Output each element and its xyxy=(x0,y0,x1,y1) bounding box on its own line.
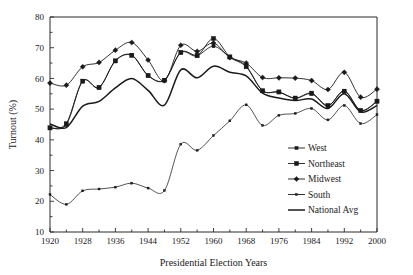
point-2-5 xyxy=(129,40,134,45)
legend-label-west: West xyxy=(308,143,327,153)
x-tick-label-1928: 1928 xyxy=(74,236,93,246)
point-3-8 xyxy=(180,143,182,145)
point-1-6 xyxy=(146,74,150,78)
point-2-9 xyxy=(195,49,200,54)
point-2-3 xyxy=(96,60,101,65)
point-3-12 xyxy=(245,104,247,106)
point-1-8 xyxy=(179,51,183,55)
point-3-2 xyxy=(82,190,84,192)
point-3-7 xyxy=(163,190,165,192)
chart-figure: 1020304050607080192019281936194419521960… xyxy=(0,0,413,275)
x-tick-label-1976: 1976 xyxy=(270,236,289,246)
point-3-18 xyxy=(343,104,345,106)
point-3-6 xyxy=(147,187,149,189)
point-1-0 xyxy=(48,126,52,130)
x-tick-label-1920: 1920 xyxy=(41,236,60,246)
point-2-17 xyxy=(325,87,330,92)
point-2-14 xyxy=(276,75,281,80)
point-1-17 xyxy=(326,103,330,107)
turnout-line-chart: 1020304050607080192019281936194419521960… xyxy=(0,0,413,275)
point-1-5 xyxy=(130,53,134,57)
point-2-13 xyxy=(260,75,265,80)
x-tick-label-1936: 1936 xyxy=(106,236,125,246)
point-1-4 xyxy=(113,59,117,63)
y-tick-label-60: 60 xyxy=(35,74,45,84)
y-tick-label-30: 30 xyxy=(35,166,45,176)
legend-marker-diamond xyxy=(294,176,299,181)
point-1-3 xyxy=(97,86,101,90)
legend-label-national-avg: National Avg xyxy=(308,205,358,215)
point-3-1 xyxy=(65,203,67,205)
point-3-10 xyxy=(213,135,215,137)
x-tick-label-1968: 1968 xyxy=(237,236,256,246)
point-3-14 xyxy=(278,114,280,116)
point-3-0 xyxy=(49,194,51,196)
y-tick-label-40: 40 xyxy=(35,135,45,145)
x-tick-label-1960: 1960 xyxy=(205,236,224,246)
x-tick-label-1984: 1984 xyxy=(303,236,322,246)
point-3-20 xyxy=(376,114,378,116)
point-2-4 xyxy=(113,48,118,53)
y-tick-label-50: 50 xyxy=(35,104,45,114)
legend-label-midwest: Midwest xyxy=(308,174,342,184)
legend-marker-plus xyxy=(295,146,298,149)
point-1-10 xyxy=(211,36,215,40)
legend-label-northeast: Northeast xyxy=(308,159,345,169)
x-tick-label-2000: 2000 xyxy=(368,236,387,246)
y-tick-label-80: 80 xyxy=(35,12,45,22)
point-1-16 xyxy=(310,91,314,95)
point-3-3 xyxy=(98,188,100,190)
point-3-17 xyxy=(327,119,329,121)
point-2-0 xyxy=(47,80,52,85)
point-3-13 xyxy=(262,124,264,126)
point-2-16 xyxy=(309,78,314,83)
point-1-14 xyxy=(277,90,281,94)
point-2-10 xyxy=(211,41,216,46)
point-3-5 xyxy=(131,182,133,184)
legend-label-south: South xyxy=(308,190,330,200)
point-3-15 xyxy=(294,112,296,114)
point-3-4 xyxy=(114,186,116,188)
x-axis-title: Presidential Election Years xyxy=(160,257,268,268)
x-tick-label-1992: 1992 xyxy=(335,236,353,246)
point-1-15 xyxy=(293,96,297,100)
point-1-2 xyxy=(81,79,85,83)
point-1-18 xyxy=(342,89,346,93)
y-tick-label-20: 20 xyxy=(35,196,45,206)
series-line-1 xyxy=(50,38,377,128)
y-tick-label-70: 70 xyxy=(35,43,45,53)
y-axis-title: Turnout (%) xyxy=(7,100,19,149)
x-tick-label-1952: 1952 xyxy=(172,236,190,246)
legend-marker-square xyxy=(294,161,298,165)
point-1-20 xyxy=(375,99,379,103)
legend-marker-dot xyxy=(296,194,298,196)
x-tick-label-1944: 1944 xyxy=(139,236,158,246)
point-3-16 xyxy=(311,108,313,110)
chart-legend: WestNortheastMidwestSouthNational Avg xyxy=(288,143,358,215)
point-3-19 xyxy=(360,123,362,125)
series-midwest xyxy=(47,40,379,100)
point-2-15 xyxy=(293,76,298,81)
point-3-9 xyxy=(196,149,198,151)
point-3-11 xyxy=(229,120,231,122)
series-northeast xyxy=(48,36,379,130)
